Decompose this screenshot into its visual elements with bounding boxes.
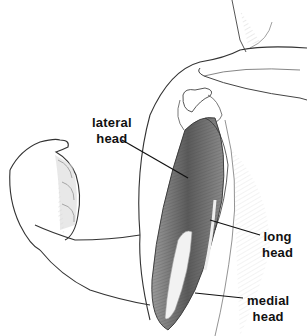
label-medial-line1: medial: [247, 293, 289, 309]
triceps-muscles: [152, 118, 228, 331]
label-long-line2: head: [262, 245, 293, 261]
forearm-fist: [10, 139, 150, 305]
triceps-anatomy-illustration: [0, 0, 307, 336]
neck: [232, 0, 272, 52]
label-medial-head: medial head: [247, 293, 289, 325]
leader-line-medial: [195, 293, 243, 298]
label-long-head: long head: [262, 229, 293, 261]
label-lateral-line1: lateral: [92, 115, 132, 131]
shoulder: [150, 47, 307, 130]
label-medial-line2: head: [247, 309, 289, 325]
label-long-line1: long: [262, 229, 293, 245]
label-lateral-head: lateral head: [92, 115, 132, 147]
label-lateral-line2: head: [92, 131, 132, 147]
